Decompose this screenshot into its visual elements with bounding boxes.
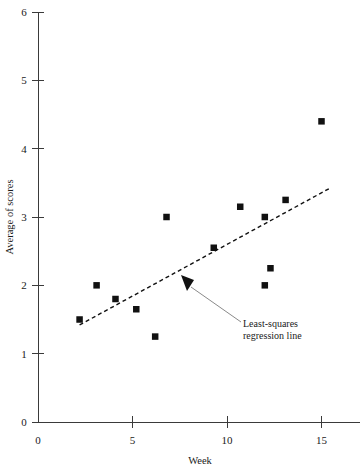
annotation-callout xyxy=(181,275,241,322)
axes-group xyxy=(38,12,360,422)
x-tick-label-10: 10 xyxy=(222,434,234,446)
plot-canvas: 6 5 4 3 2 1 0 0 5 10 15 Week Average of … xyxy=(0,0,364,476)
data-point xyxy=(93,282,100,289)
data-point xyxy=(133,306,140,313)
y-tick-label-2: 2 xyxy=(21,279,27,291)
y-tick-label-5: 5 xyxy=(21,74,27,86)
annotation-arrowhead-icon xyxy=(181,275,194,291)
x-tick-label-0: 0 xyxy=(35,434,41,446)
data-point xyxy=(152,333,159,340)
data-point xyxy=(211,245,218,252)
data-point xyxy=(262,282,269,289)
data-point xyxy=(76,316,83,323)
data-point xyxy=(237,204,244,211)
y-tick-label-4: 4 xyxy=(21,143,27,155)
y-axis-title: Average of scores xyxy=(4,179,15,254)
annotation-leader-line xyxy=(191,287,241,322)
y-tick-label-0: 0 xyxy=(21,416,27,428)
least-squares-regression-line xyxy=(80,188,331,325)
scatter-plot-figure: 6 5 4 3 2 1 0 0 5 10 15 Week Average of … xyxy=(0,0,364,476)
data-point xyxy=(262,214,269,221)
y-tick-label-6: 6 xyxy=(21,6,27,18)
data-point xyxy=(267,265,274,272)
annotation-text-line1: Least-squares xyxy=(243,318,298,329)
x-tick-labels: 0 5 10 15 xyxy=(35,434,327,446)
data-point xyxy=(282,197,289,204)
y-tick-label-3: 3 xyxy=(21,211,27,223)
x-axis-title: Week xyxy=(188,455,212,466)
y-tick-label-1: 1 xyxy=(21,348,27,360)
annotation-text-line2: regression line xyxy=(243,330,302,341)
x-tick-label-5: 5 xyxy=(130,434,136,446)
data-point xyxy=(112,296,119,303)
data-point xyxy=(318,118,325,125)
x-tick-label-15: 15 xyxy=(316,434,328,446)
data-point xyxy=(163,214,170,221)
y-tick-labels: 6 5 4 3 2 1 0 xyxy=(21,6,27,428)
